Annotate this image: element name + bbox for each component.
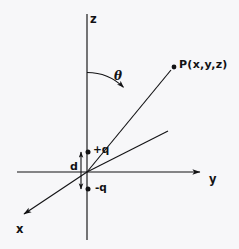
- z-axis-label: z: [90, 14, 97, 26]
- separation-distance-label: d: [70, 161, 78, 172]
- dipole-coordinate-diagram: z y x θ P(x,y,z) +q -q d: [0, 0, 239, 249]
- theta-angle-label: θ: [114, 70, 122, 82]
- radial-ray-to-point: [87, 70, 171, 172]
- point-p-dot: [172, 65, 177, 70]
- negative-charge-dot: [86, 187, 91, 192]
- positive-charge-label: +q: [93, 144, 109, 155]
- x-axis-label: x: [16, 224, 24, 236]
- positive-charge-dot: [86, 150, 91, 155]
- point-p-label: P(x,y,z): [179, 59, 228, 70]
- y-axis-label: y: [209, 174, 217, 186]
- negative-charge-label: -q: [95, 182, 107, 193]
- x-axis-line: [24, 172, 87, 214]
- diagram-canvas: [0, 0, 239, 249]
